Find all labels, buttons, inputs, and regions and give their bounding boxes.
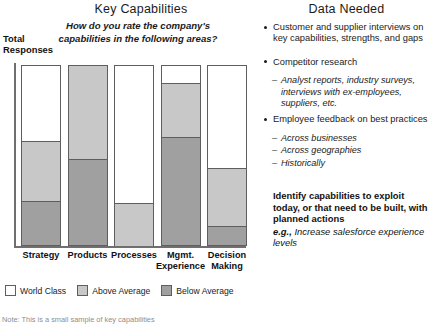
sub-bullet-item: –Historically — [264, 158, 435, 169]
conclusion-example: e.g., Increase salesforce experience lev… — [273, 226, 433, 249]
bullet-dot-icon — [264, 26, 267, 29]
chart-title: Key Capabilities — [56, 2, 226, 16]
bullet-item: Employee feedback on best practices — [264, 114, 435, 125]
conclusion-example-body: Increase salesforce experience levels — [273, 226, 424, 249]
key-capabilities-chart-panel: Key Capabilities How do you rate the com… — [0, 0, 258, 325]
sub-bullet-dash-icon: – — [272, 75, 277, 86]
legend-item-above-average[interactable]: Above Average — [77, 285, 150, 296]
y-axis-label: TotalResponses — [3, 33, 53, 55]
sub-bullet-item: –Analyst reports, industry surveys, inte… — [264, 75, 435, 109]
segment-world-class — [21, 65, 61, 141]
sub-bullet-text: Analyst reports, industry surveys, inter… — [281, 75, 415, 108]
data-needed-panel: Data Needed Customer and supplier interv… — [258, 0, 435, 325]
legend-label: Above Average — [92, 286, 150, 296]
segment-below-average — [207, 226, 247, 246]
conclusion-statement: Identify capabilities to exploit today, … — [273, 190, 433, 225]
bullet-text: Employee feedback on best practices — [273, 114, 428, 124]
bar-processes — [114, 65, 154, 246]
x-axis-line — [14, 246, 246, 248]
segment-below-average — [21, 201, 61, 246]
sub-bullet-text: Historically — [281, 158, 325, 168]
legend-swatch-icon — [161, 285, 172, 296]
conclusion-example-lead: e.g., — [273, 226, 292, 237]
segment-above-average — [68, 65, 108, 159]
chart-legend: World ClassAbove AverageBelow Average — [5, 285, 245, 296]
legend-label: World Class — [20, 286, 66, 296]
sub-bullet-dash-icon: – — [272, 133, 277, 144]
segment-above-average — [161, 83, 201, 137]
legend-swatch-icon — [77, 285, 88, 296]
chart-question-subtitle: How do you rate the company's capabiliti… — [52, 20, 224, 45]
bullet-text: Customer and supplier interviews on key … — [273, 22, 423, 43]
legend-item-below-average[interactable]: Below Average — [161, 285, 233, 296]
bar-mgmt-experience — [161, 65, 201, 246]
sub-bullet-text: Across businesses — [281, 133, 357, 143]
segment-below-average — [161, 137, 201, 246]
sub-bullet-dash-icon: – — [272, 145, 277, 156]
bar-label-mgmt-experience: Mgmt.Experience — [155, 250, 207, 271]
bar-label-strategy: Strategy — [15, 250, 67, 261]
bullet-dot-icon — [264, 60, 267, 63]
bar-label-decision-making: DecisionMaking — [201, 250, 253, 271]
chart-footnote: Note: This is a small sample of key capa… — [2, 315, 302, 324]
segment-above-average — [207, 168, 247, 226]
bar-label-products: Products — [62, 250, 114, 261]
data-needed-bullet-list: Customer and supplier interviews on key … — [264, 22, 435, 169]
bullet-text: Competitor research — [273, 57, 357, 67]
bar-label-processes: Processes — [108, 250, 160, 261]
segment-world-class — [207, 65, 247, 168]
legend-item-world-class[interactable]: World Class — [5, 285, 66, 296]
bar-strategy — [21, 65, 61, 246]
sub-bullet-item: –Across businesses — [264, 133, 435, 144]
y-axis-line — [14, 63, 16, 247]
bullet-item: Competitor research — [264, 57, 435, 68]
segment-above-average — [114, 203, 154, 246]
data-needed-title: Data Needed — [258, 2, 435, 16]
bar-products — [68, 65, 108, 246]
bullet-dot-icon — [264, 118, 267, 121]
segment-world-class — [114, 65, 154, 203]
segment-below-average — [68, 159, 108, 246]
bar-decision-making — [207, 65, 247, 246]
segment-above-average — [21, 141, 61, 201]
sub-bullet-text: Across geographies — [281, 145, 361, 155]
segment-world-class — [161, 65, 201, 83]
sub-bullet-dash-icon: – — [272, 158, 277, 169]
legend-swatch-icon — [5, 285, 16, 296]
sub-bullet-item: –Across geographies — [264, 145, 435, 156]
bullet-item: Customer and supplier interviews on key … — [264, 22, 435, 45]
legend-label: Below Average — [176, 286, 233, 296]
conclusion-block: Identify capabilities to exploit today, … — [273, 190, 433, 249]
